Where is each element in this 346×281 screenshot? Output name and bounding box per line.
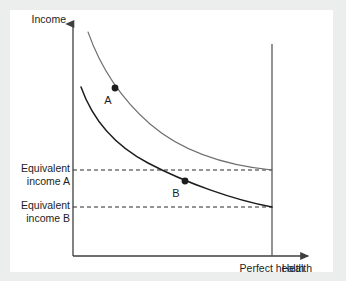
equivalent-income-chart: Income Health Perfect health Equivalent …	[0, 0, 346, 281]
equivalent-income-b-label-line1: Equivalent	[21, 199, 70, 211]
figure-root: Income Health Perfect health Equivalent …	[0, 0, 346, 281]
data-point-b	[182, 178, 189, 185]
data-point-a	[112, 85, 119, 92]
y-axis-title: Income	[32, 13, 67, 25]
perfect-health-label: Perfect health	[240, 262, 305, 274]
equivalent-income-a-label-line1: Equivalent	[21, 162, 70, 174]
data-point-b-label: B	[172, 187, 179, 199]
indifference-curve-a	[88, 32, 272, 170]
equivalent-income-b-label-line2: income B	[26, 212, 70, 224]
equivalent-income-a-label-line2: income A	[27, 175, 70, 187]
data-point-a-label: A	[104, 94, 112, 106]
